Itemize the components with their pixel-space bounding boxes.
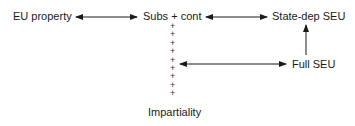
connector-plus: + [170,89,175,98]
node-eu-property: EU property [13,10,72,23]
node-impartiality: Impartiality [148,106,201,119]
node-subs-cont-right: cont [181,10,202,22]
node-full-seu: Full SEU [292,58,335,71]
node-subs-cont-left: Subs [143,10,168,22]
node-state-dep-seu: State-dep SEU [272,10,345,23]
